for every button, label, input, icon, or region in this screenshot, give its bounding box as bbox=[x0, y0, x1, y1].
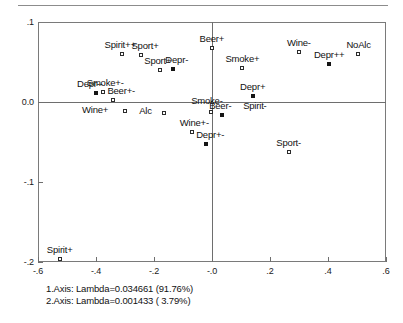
data-point-label: Depr- bbox=[165, 55, 188, 65]
y-axis-zero-line bbox=[212, 22, 213, 262]
axis-inertia-caption: 1.Axis: Lambda=0.034661 (91.76%) 2.Axis:… bbox=[46, 283, 193, 306]
data-point-marker[interactable] bbox=[220, 113, 224, 117]
x-tick-label: -.2 bbox=[149, 266, 159, 276]
data-point-label: Beer+- bbox=[107, 86, 135, 96]
data-point-marker[interactable] bbox=[120, 52, 124, 56]
plot-area: Spirit+Spirit++Sport+Sport+Depr-Smoke+-D… bbox=[38, 22, 386, 262]
y-tick-label: -.1 bbox=[6, 177, 34, 187]
data-point-label: Depr++ bbox=[314, 50, 345, 60]
data-point-label: Sport+ bbox=[131, 41, 158, 51]
x-tick bbox=[328, 257, 329, 262]
data-point-label: Alc bbox=[139, 106, 152, 116]
data-point-label: Wine+- bbox=[180, 118, 209, 128]
y-tick-label: -.2 bbox=[6, 257, 34, 267]
data-point-label: Smoke+ bbox=[225, 54, 259, 64]
data-point-label: Beer- bbox=[209, 101, 231, 111]
data-point-marker[interactable] bbox=[356, 52, 360, 56]
data-point-marker[interactable] bbox=[139, 53, 143, 57]
plot-frame-right bbox=[385, 22, 386, 262]
x-tick bbox=[96, 257, 97, 262]
data-point-label: Beer+ bbox=[200, 34, 225, 44]
correspondence-analysis-figure: Spirit+Spirit++Sport+Sport+Depr-Smoke+-D… bbox=[0, 0, 403, 323]
x-tick bbox=[154, 257, 155, 262]
data-point-label: Spirit- bbox=[243, 101, 266, 111]
data-point-label: Depr+ bbox=[240, 82, 265, 92]
data-point-label: Wine- bbox=[287, 38, 311, 48]
data-point-label: Depr-- bbox=[77, 79, 103, 89]
data-point-marker[interactable] bbox=[287, 150, 291, 154]
data-point-label: Wine+ bbox=[82, 105, 108, 115]
data-point-marker[interactable] bbox=[240, 66, 244, 70]
data-point-marker[interactable] bbox=[94, 91, 98, 95]
x-tick-label: .4 bbox=[324, 266, 331, 276]
caption-line-2: 2.Axis: Lambda=0.001433 ( 3.79%) bbox=[46, 295, 193, 307]
x-tick-label: .2 bbox=[266, 266, 273, 276]
data-point-label: NoAlc bbox=[346, 40, 370, 50]
data-point-marker[interactable] bbox=[210, 46, 214, 50]
data-point-marker[interactable] bbox=[123, 109, 127, 113]
data-point-label: Depr+- bbox=[196, 130, 224, 140]
data-point-marker[interactable] bbox=[111, 98, 115, 102]
y-tick bbox=[38, 182, 43, 183]
x-tick-label: -.4 bbox=[91, 266, 101, 276]
data-point-marker[interactable] bbox=[158, 68, 162, 72]
data-point-label: Spirit+ bbox=[47, 245, 73, 255]
x-tick bbox=[212, 257, 213, 262]
top-horizontal-rule bbox=[18, 5, 388, 6]
plot-frame-left bbox=[38, 22, 39, 262]
data-point-marker[interactable] bbox=[101, 90, 105, 94]
data-point-marker[interactable] bbox=[204, 142, 208, 146]
x-tick bbox=[386, 257, 387, 262]
y-tick-label: .1 bbox=[6, 17, 34, 27]
caption-line-1: 1.Axis: Lambda=0.034661 (91.76%) bbox=[46, 283, 193, 295]
y-tick-label: 0.0 bbox=[6, 97, 34, 107]
data-point-marker[interactable] bbox=[162, 111, 166, 115]
data-point-marker[interactable] bbox=[171, 67, 175, 71]
data-point-marker[interactable] bbox=[327, 62, 331, 66]
data-point-marker[interactable] bbox=[251, 94, 255, 98]
y-tick bbox=[38, 262, 43, 263]
data-point-label: Sport- bbox=[276, 138, 301, 148]
x-tick-label: .6 bbox=[382, 266, 389, 276]
x-tick-label: -.0 bbox=[207, 266, 217, 276]
x-tick bbox=[270, 257, 271, 262]
data-point-marker[interactable] bbox=[58, 257, 62, 261]
data-point-marker[interactable] bbox=[190, 130, 194, 134]
data-point-marker[interactable] bbox=[297, 50, 301, 54]
x-tick-label: -.6 bbox=[33, 266, 43, 276]
